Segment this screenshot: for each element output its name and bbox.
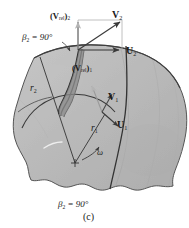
r-2-label: r2 xyxy=(30,84,37,94)
impeller-velocity-diagram: (Vrel)2 V2 U2 β2 = 90° (Vrel)1 V1 U1 r2 … xyxy=(0,0,189,228)
v-1-label: V1 xyxy=(108,92,118,102)
beta-2-top-label: β2 = 90° xyxy=(22,33,52,42)
omega-label: ω xyxy=(97,148,103,157)
v-rel-2-label: (Vrel)2 xyxy=(50,12,70,21)
figure-caption: (c) xyxy=(83,212,94,222)
r-1-label: r1 xyxy=(91,124,98,134)
beta-2-bottom-label: β2 = 90° xyxy=(58,200,88,209)
v-rel-1-label: (Vrel)1 xyxy=(72,64,92,73)
v-2-label: V2 xyxy=(112,10,122,20)
u-2-label: U2 xyxy=(126,46,136,56)
u-1-label: U1 xyxy=(117,120,127,130)
